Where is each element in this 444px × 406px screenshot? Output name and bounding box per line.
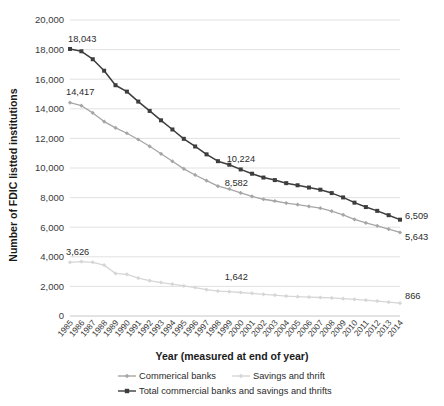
data-point-marker — [375, 209, 379, 213]
legend-label: Commerical banks — [139, 371, 216, 381]
point-value-label: 1,642 — [225, 272, 248, 282]
legend-item[interactable]: Total commercial banks and savings and t… — [118, 386, 332, 396]
y-axis-tick-labels: 02,0004,0006,0008,00010,00012,00014,0001… — [35, 14, 64, 321]
data-point-marker — [68, 101, 72, 105]
y-tick-label: 20,000 — [35, 14, 64, 25]
data-point-marker — [364, 221, 368, 225]
point-value-label: 8,582 — [225, 178, 248, 188]
data-point-marker — [125, 272, 129, 276]
y-tick-label: 6,000 — [40, 222, 64, 233]
data-point-marker — [352, 217, 356, 221]
data-point-marker — [295, 203, 299, 207]
data-point-marker — [193, 144, 197, 148]
data-point-marker — [159, 280, 163, 284]
data-point-marker — [364, 298, 368, 302]
y-tick-label: 0 — [59, 310, 64, 321]
data-point-marker — [239, 167, 243, 171]
data-point-marker — [330, 191, 334, 195]
point-value-label: 18,043 — [68, 34, 96, 44]
data-point-marker — [261, 176, 265, 180]
point-value-label: 5,643 — [405, 232, 428, 242]
data-point-marker — [148, 279, 152, 283]
point-value-label: 3,626 — [66, 247, 89, 257]
legend-marker — [239, 374, 243, 378]
data-point-marker — [296, 183, 300, 187]
x-axis-title: Year (measured at end of year) — [156, 350, 309, 362]
data-point-marker — [284, 181, 288, 185]
y-tick-label: 12,000 — [35, 133, 64, 144]
legend-marker — [125, 374, 129, 378]
data-point-marker — [148, 109, 152, 113]
data-point-marker — [330, 296, 334, 300]
legend-item[interactable]: Commerical banks — [118, 371, 216, 381]
point-value-label: 10,224 — [227, 154, 255, 164]
data-point-marker — [205, 152, 209, 156]
data-point-marker — [204, 288, 208, 292]
data-point-marker — [398, 230, 402, 234]
y-tick-label: 16,000 — [35, 74, 64, 85]
y-tick-label: 4,000 — [40, 251, 64, 262]
series-line — [70, 49, 400, 220]
point-value-label: 14,417 — [66, 87, 94, 97]
data-point-marker — [318, 206, 322, 210]
data-point-marker — [102, 69, 106, 73]
data-point-marker — [91, 260, 95, 264]
data-point-marker — [398, 218, 402, 222]
data-point-marker — [387, 213, 391, 217]
data-point-marker — [330, 209, 334, 213]
data-point-marker — [250, 172, 254, 176]
data-point-marker — [182, 137, 186, 141]
data-point-marker — [341, 297, 345, 301]
data-point-marker — [273, 199, 277, 203]
y-tick-label: 18,000 — [35, 44, 64, 55]
data-point-marker — [398, 301, 402, 305]
data-point-marker — [364, 205, 368, 209]
data-point-marker — [261, 292, 265, 296]
data-point-marker — [250, 291, 254, 295]
legend-item[interactable]: Savings and thrift — [232, 371, 325, 381]
data-point-marker — [341, 213, 345, 217]
data-point-marker — [273, 178, 277, 182]
data-point-annotations: 18,04314,4173,62610,2248,5821,6426,5095,… — [66, 34, 428, 301]
series-3 — [68, 47, 402, 222]
legend-label: Total commercial banks and savings and t… — [139, 386, 332, 396]
data-point-marker — [295, 295, 299, 299]
data-point-marker — [352, 201, 356, 205]
data-point-marker — [170, 127, 174, 131]
data-point-marker — [114, 83, 118, 87]
data-point-marker — [284, 201, 288, 205]
data-point-marker — [387, 300, 391, 304]
data-point-marker — [125, 90, 129, 94]
chart-container: 02,0004,0006,0008,00010,00012,00014,0001… — [0, 0, 444, 406]
data-point-marker — [307, 204, 311, 208]
data-point-marker — [375, 299, 379, 303]
point-value-label: 6,509 — [405, 211, 428, 221]
data-point-marker — [273, 293, 277, 297]
data-point-marker — [68, 47, 72, 51]
y-tick-label: 2,000 — [40, 281, 64, 292]
data-point-marker — [239, 290, 243, 294]
data-point-marker — [204, 179, 208, 183]
data-point-marker — [170, 282, 174, 286]
data-point-marker — [136, 276, 140, 280]
data-point-marker — [182, 284, 186, 288]
x-axis-tick-labels: 1985198619871988198919901991199219931994… — [55, 318, 405, 339]
y-tick-label: 8,000 — [40, 192, 64, 203]
data-point-marker — [307, 186, 311, 190]
legend-marker — [125, 389, 129, 393]
data-point-marker — [216, 289, 220, 293]
data-point-marker — [216, 159, 220, 163]
data-point-marker — [79, 49, 83, 53]
data-point-marker — [318, 295, 322, 299]
data-point-marker — [307, 295, 311, 299]
data-point-marker — [79, 259, 83, 263]
y-axis-title: Number of FDIC listted institutions — [7, 88, 19, 261]
y-tick-label: 14,000 — [35, 103, 64, 114]
data-point-marker — [68, 260, 72, 264]
y-tick-label: 10,000 — [35, 162, 64, 173]
point-value-label: 866 — [405, 291, 421, 301]
data-point-marker — [227, 290, 231, 294]
data-point-marker — [341, 195, 345, 199]
data-point-marker — [239, 191, 243, 195]
series-lines — [68, 47, 402, 305]
